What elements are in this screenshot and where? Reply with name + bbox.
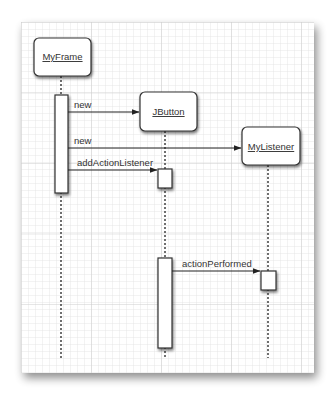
message-label-new-2: new	[74, 135, 92, 146]
object-mylistener: MyListener	[242, 127, 300, 165]
sequence-diagram: MyFrame JButton MyListener new new addAc…	[0, 0, 336, 394]
object-jbutton: JButton	[140, 92, 197, 131]
object-label-jbutton: JButton	[152, 106, 184, 117]
message-label-addactionlistener: addActionListener	[77, 157, 153, 168]
message-label-actionperformed: actionPerformed	[182, 258, 252, 269]
activation-jbutton-register	[158, 169, 172, 188]
activation-mylistener	[261, 271, 276, 290]
message-label-new-1: new	[74, 99, 92, 110]
object-label-mylistener: MyListener	[248, 141, 294, 152]
activation-myframe	[55, 95, 68, 193]
object-label-myframe: MyFrame	[42, 51, 82, 62]
object-myframe: MyFrame	[34, 38, 91, 76]
activation-jbutton-event	[158, 258, 172, 348]
